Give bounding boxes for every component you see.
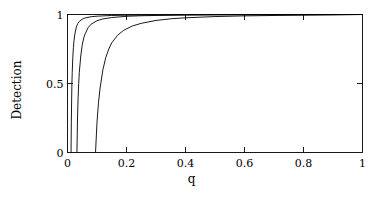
x-tick-label: 0.4 bbox=[177, 158, 195, 169]
x-tick-label: 1 bbox=[359, 158, 366, 169]
x-tick-label: 0 bbox=[64, 158, 71, 169]
x-tick-label: 0.8 bbox=[295, 158, 313, 169]
y-axis-title: Detection bbox=[10, 45, 24, 135]
x-tick-label: 0.2 bbox=[118, 158, 136, 169]
detection-vs-q-figure: 00.20.40.60.81 00.51 q Detection bbox=[0, 0, 383, 197]
plot-box-border bbox=[68, 15, 363, 153]
y-tick-label: 0.5 bbox=[20, 78, 64, 89]
curve-curve-2 bbox=[77, 15, 363, 153]
data-curves bbox=[71, 15, 362, 153]
x-tick-label: 0.6 bbox=[236, 158, 254, 169]
curve-curve-3 bbox=[96, 15, 363, 153]
y-tick-label: 1 bbox=[20, 9, 64, 20]
x-axis-title: q bbox=[0, 172, 383, 186]
curve-curve-1 bbox=[71, 15, 362, 153]
axis-frame bbox=[68, 15, 363, 153]
axis-ticks bbox=[68, 15, 363, 153]
y-tick-label: 0 bbox=[20, 147, 64, 158]
